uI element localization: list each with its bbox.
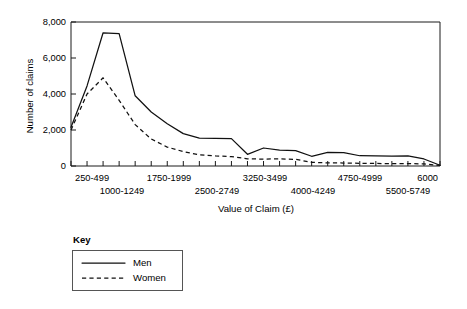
x-tick-label-1000-1249: 1000-1249 <box>100 186 144 196</box>
y-tick-label-8000: 8,000 <box>43 17 66 27</box>
x-tick-label-4000-4249: 4000-4249 <box>291 186 335 196</box>
x-tick-label-3250-3499: 3250-3499 <box>243 173 287 183</box>
legend-label-women: Women <box>133 272 166 283</box>
legend-title: Key <box>73 234 91 245</box>
x-tick-label-2500-2749: 2500-2749 <box>195 186 239 196</box>
y-axis-title: Number of claims <box>24 58 35 133</box>
x-tick-label-250-499: 250-499 <box>75 173 109 183</box>
chart-figure: Number of claims 8,000 6,000 4,000 2,000… <box>0 0 467 309</box>
x-tick-label-1750-1999: 1750-1999 <box>147 173 191 183</box>
y-tick-label-2000: 2,000 <box>43 125 66 135</box>
claims-line-chart: Number of claims 8,000 6,000 4,000 2,000… <box>0 0 467 309</box>
x-axis-title: Value of Claim (£) <box>218 203 294 214</box>
x-tick-label-4750-4999: 4750-4999 <box>338 173 382 183</box>
y-tick-label-4000: 4,000 <box>43 89 66 99</box>
x-tick-label-6000: 6000 <box>417 173 438 183</box>
x-tick-label-5500-5749: 5500-5749 <box>386 186 430 196</box>
y-tick-label-6000: 6,000 <box>43 53 66 63</box>
y-tick-label-0: 0 <box>61 161 66 171</box>
chart-background <box>0 0 467 309</box>
legend-label-men: Men <box>133 257 152 268</box>
